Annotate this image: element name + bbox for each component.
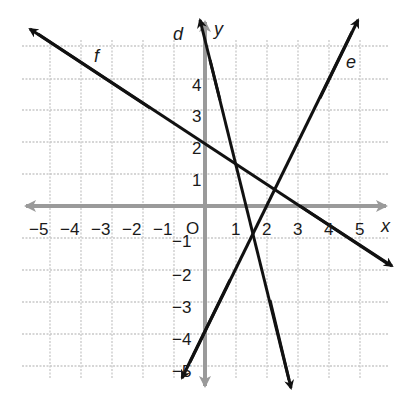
y-tick-label: −2 <box>172 266 191 285</box>
y-tick-label: −3 <box>172 298 191 317</box>
x-tick-label: −3 <box>91 220 110 239</box>
y-tick-label: −4 <box>172 330 191 349</box>
x-tick-label: 5 <box>355 220 364 239</box>
x-axis-label: x <box>380 216 391 236</box>
x-tick-label: −4 <box>60 220 79 239</box>
x-tick-label: 3 <box>293 220 302 239</box>
x-tick-label: −2 <box>122 220 141 239</box>
y-axis-label: y <box>212 19 224 39</box>
x-tick-label: −5 <box>29 220 48 239</box>
origin-label: O <box>186 219 199 238</box>
line-f <box>300 206 392 266</box>
y-tick-label: 3 <box>192 107 201 126</box>
line-f <box>30 29 150 108</box>
x-tick-label: −1 <box>153 220 172 239</box>
x-tick-label: 4 <box>324 220 333 239</box>
line-d <box>270 300 291 388</box>
x-tick-label: 1 <box>231 220 240 239</box>
line-e-label: e <box>346 52 356 72</box>
y-tick-label: 1 <box>192 171 201 190</box>
y-tick-label: −5 <box>172 362 191 381</box>
coordinate-plane: −5 −4 −3 −2 −1 1 2 3 4 5 1 2 3 4 −1 −2 −… <box>0 0 419 400</box>
y-tick-label: 4 <box>192 76 201 95</box>
y-tick-label: 2 <box>192 139 201 158</box>
x-tick-label: 2 <box>262 220 271 239</box>
line-d-label: d <box>173 24 184 44</box>
line-f-label: f <box>94 46 101 66</box>
